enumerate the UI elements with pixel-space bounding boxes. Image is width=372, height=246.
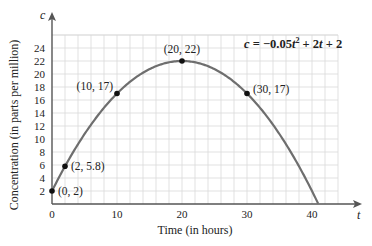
x-tick-label: 40 <box>307 208 319 220</box>
y-tick-label: 22 <box>34 55 45 67</box>
y-tick-label: 2 <box>40 185 46 197</box>
y-tick-label: 4 <box>40 172 46 184</box>
equation-label: c = −0.05t2 + 2t + 2 <box>244 36 342 51</box>
chart: 010203040 24681012141618202224 t c Time … <box>0 0 372 246</box>
y-tick-label: 20 <box>34 68 46 80</box>
y-tick-label: 24 <box>34 42 46 54</box>
data-point-label: (10, 17) <box>77 80 114 93</box>
x-tick-label: 0 <box>49 208 55 220</box>
y-tick-label: 8 <box>40 146 46 158</box>
data-point-marker <box>62 164 68 170</box>
y-tick-label: 10 <box>34 133 46 145</box>
y-tick-label: 14 <box>34 107 46 119</box>
y-variable-label: c <box>40 8 46 22</box>
data-point-label: (20, 22) <box>164 43 201 56</box>
data-point-label: (30, 17) <box>253 83 290 96</box>
data-point-marker <box>49 188 55 194</box>
y-tick-label: 16 <box>34 94 46 106</box>
data-point-marker <box>244 91 250 97</box>
x-variable-label: t <box>357 208 361 222</box>
y-tick-label: 6 <box>40 159 46 171</box>
data-point-marker <box>114 91 120 97</box>
x-axis-title: Time (in hours) <box>158 223 233 237</box>
x-tick-labels: 010203040 <box>49 208 318 220</box>
x-tick-label: 20 <box>177 208 189 220</box>
x-tick-label: 10 <box>112 208 124 220</box>
y-tick-label: 18 <box>34 81 46 93</box>
y-axis-title: Concentration (in parts per million) <box>7 40 21 211</box>
x-tick-label: 30 <box>242 208 254 220</box>
data-point-label: (0, 2) <box>58 185 83 198</box>
y-tick-label: 12 <box>34 120 45 132</box>
y-tick-labels: 24681012141618202224 <box>34 42 46 197</box>
data-point-marker <box>179 58 185 64</box>
data-point-label: (2, 5.8) <box>71 160 105 173</box>
